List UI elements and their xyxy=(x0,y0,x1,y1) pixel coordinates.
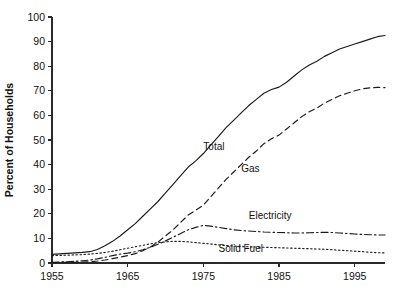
series-label-solid-fuel: Solid Fuel xyxy=(219,243,263,254)
y-tick-label: 80 xyxy=(33,60,45,72)
x-tick-label: 1955 xyxy=(40,270,64,282)
x-tick-label: 1995 xyxy=(343,270,367,282)
series-label-gas: Gas xyxy=(241,163,259,174)
y-tick-label: 60 xyxy=(33,109,45,121)
y-tick-label: 90 xyxy=(33,35,45,47)
y-tick-label: 50 xyxy=(33,134,45,146)
series-label-total: Total xyxy=(203,141,224,152)
y-tick-label: 30 xyxy=(33,183,45,195)
y-axis-title-group: Percent of Households xyxy=(3,83,15,198)
x-tick-label: 1975 xyxy=(192,270,216,282)
y-tick-label: 70 xyxy=(33,84,45,96)
series-label-electricity: Electricity xyxy=(249,210,292,221)
chart-figure: 0102030405060708090100 19551965197519851… xyxy=(0,0,395,292)
x-tick-label: 1985 xyxy=(267,270,291,282)
y-axis-title: Percent of Households xyxy=(3,83,15,198)
y-tick-label: 0 xyxy=(39,257,45,269)
y-tick-label: 40 xyxy=(33,158,45,170)
plot-background xyxy=(0,0,395,292)
y-tick-label: 10 xyxy=(33,232,45,244)
y-tick-label: 100 xyxy=(27,11,45,23)
x-tick-label: 1965 xyxy=(116,270,140,282)
y-tick-label: 20 xyxy=(33,207,45,219)
line-chart-svg: 0102030405060708090100 19551965197519851… xyxy=(0,0,395,292)
